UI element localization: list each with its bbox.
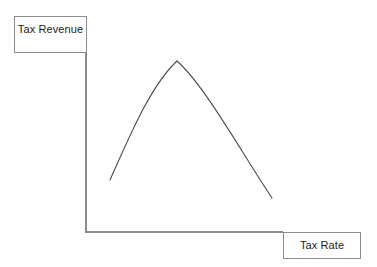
y-axis-label-box: Tax Revenue — [14, 16, 87, 53]
laffer-curve-path — [110, 61, 272, 198]
x-axis-label-text: Tax Rate — [300, 240, 344, 251]
y-axis-label-text: Tax Revenue — [15, 24, 86, 35]
laffer-curve-diagram: Tax Revenue Tax Rate — [0, 0, 377, 267]
x-axis-label-box: Tax Rate — [283, 232, 361, 259]
